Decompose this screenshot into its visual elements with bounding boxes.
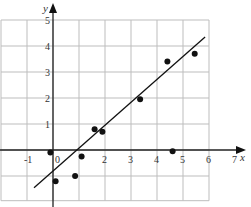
svg-text:3: 3	[45, 67, 50, 78]
svg-text:4: 4	[45, 41, 50, 52]
svg-text:6: 6	[206, 154, 211, 165]
best-fit-line	[34, 37, 205, 188]
data-points	[47, 51, 197, 184]
svg-text:7: 7	[232, 154, 237, 165]
grid	[1, 20, 209, 201]
svg-text:4: 4	[154, 154, 159, 165]
data-point	[92, 126, 98, 132]
x-axis-label: x	[239, 151, 245, 163]
svg-text:2: 2	[102, 154, 107, 165]
svg-text:2: 2	[45, 93, 50, 104]
data-point	[164, 59, 170, 65]
svg-text:1: 1	[45, 119, 50, 130]
data-point	[47, 150, 53, 156]
scatter-plot: -1023456712345 x y	[0, 0, 251, 207]
svg-text:5: 5	[45, 15, 50, 26]
data-point	[72, 173, 78, 179]
y-axis-label: y	[42, 2, 48, 14]
svg-text:-1: -1	[24, 154, 32, 165]
svg-text:0: 0	[55, 154, 60, 165]
data-point	[79, 154, 85, 160]
data-point	[192, 51, 198, 57]
data-point	[99, 129, 105, 135]
svg-text:3: 3	[128, 154, 133, 165]
data-point	[137, 96, 143, 102]
data-point	[53, 178, 59, 184]
data-point	[170, 148, 176, 154]
svg-text:5: 5	[180, 154, 185, 165]
